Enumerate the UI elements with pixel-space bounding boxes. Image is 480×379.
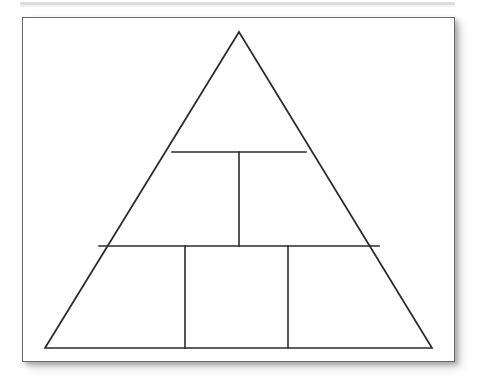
base-center-segment[interactable] [185,246,288,348]
page-root [0,0,480,379]
top-horizontal-rule [20,2,455,5]
